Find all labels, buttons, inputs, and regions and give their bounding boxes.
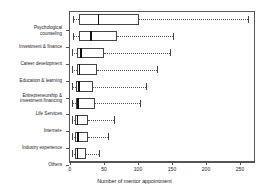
median-line bbox=[90, 31, 91, 42]
whisker-high-cap bbox=[140, 100, 141, 107]
box-iqr bbox=[79, 14, 140, 25]
whisker-low-cap bbox=[72, 133, 73, 140]
whisker-high-cap bbox=[248, 16, 249, 23]
x-tick bbox=[70, 162, 71, 165]
x-tick bbox=[172, 162, 173, 165]
median-line bbox=[78, 81, 79, 92]
x-tick bbox=[206, 162, 207, 165]
category-label: Education & learning bbox=[20, 78, 62, 83]
x-tick-label: 150 bbox=[168, 166, 176, 172]
x-tick-label: 0 bbox=[69, 166, 72, 172]
x-tick bbox=[138, 162, 139, 165]
category-label: Psychological counseling bbox=[34, 25, 62, 35]
boxplot-chart: Psychological counselingInvestment & fin… bbox=[0, 0, 269, 194]
category-label: Entrepreneurship & investment financing bbox=[20, 92, 62, 102]
median-line bbox=[80, 48, 81, 59]
whisker-high-cap bbox=[108, 133, 109, 140]
x-axis-line bbox=[69, 162, 255, 163]
x-tick-label: 250 bbox=[236, 166, 244, 172]
whisker-high-cap bbox=[173, 33, 174, 40]
whisker-low-cap bbox=[73, 16, 74, 23]
whisker-low-cap bbox=[73, 33, 74, 40]
x-tick-label: 200 bbox=[202, 166, 210, 172]
category-label: Investment & finance bbox=[19, 45, 62, 50]
median-line bbox=[77, 132, 78, 143]
whisker-high-line bbox=[139, 19, 248, 20]
box-iqr bbox=[76, 98, 95, 109]
whisker-high-line bbox=[86, 154, 98, 155]
category-label: Career development bbox=[20, 61, 62, 66]
x-tick bbox=[104, 162, 105, 165]
whisker-low-cap bbox=[72, 150, 73, 157]
whisker-low-cap bbox=[72, 49, 73, 56]
median-line bbox=[98, 14, 99, 25]
whisker-low-cap bbox=[72, 100, 73, 107]
whisker-high-line bbox=[97, 70, 157, 71]
category-label: Internet+ bbox=[44, 128, 62, 133]
whisker-high-cap bbox=[114, 116, 115, 123]
whisker-low-cap bbox=[72, 83, 73, 90]
whisker-high-cap bbox=[157, 66, 158, 73]
whisker-high-line bbox=[117, 36, 173, 37]
median-line bbox=[77, 98, 78, 109]
x-tick-label: 100 bbox=[134, 166, 142, 172]
x-tick-label: 50 bbox=[101, 166, 107, 172]
whisker-high-line bbox=[104, 53, 170, 54]
whisker-high-cap bbox=[170, 49, 171, 56]
median-line bbox=[79, 64, 80, 75]
x-tick bbox=[240, 162, 241, 165]
whisker-high-line bbox=[88, 120, 113, 121]
whisker-high-cap bbox=[99, 150, 100, 157]
box-iqr bbox=[79, 31, 117, 42]
whisker-low-cap bbox=[72, 66, 73, 73]
whisker-high-line bbox=[95, 103, 140, 104]
category-label: Industry experience bbox=[22, 145, 62, 150]
whisker-high-cap bbox=[146, 83, 147, 90]
category-label: Others bbox=[48, 162, 62, 167]
whisker-high-line bbox=[88, 137, 108, 138]
whisker-high-line bbox=[93, 87, 146, 88]
median-line bbox=[77, 148, 78, 159]
category-label: Life Services bbox=[36, 112, 62, 117]
whisker-low-cap bbox=[72, 116, 73, 123]
median-line bbox=[77, 115, 78, 126]
category-axis: Psychological counselingInvestment & fin… bbox=[0, 11, 66, 162]
x-axis-title: Number of mentor appointment bbox=[0, 178, 269, 184]
